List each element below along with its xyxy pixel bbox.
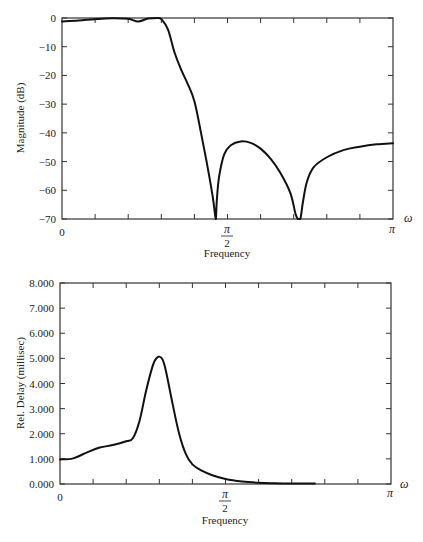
magnitude-x-tick-label-0: 0 <box>59 226 65 238</box>
delay-ticks <box>60 283 391 484</box>
delay-x-tick-label-0: 0 <box>57 491 63 503</box>
magnitude-y-tick-label: −70 <box>39 213 57 225</box>
magnitude-y-tick-label: −10 <box>39 41 57 53</box>
delay-plot-frame <box>60 283 391 484</box>
magnitude-ticks <box>62 18 393 219</box>
delay-y-tick-label: 7.000 <box>29 302 54 314</box>
delay-y-tick-labels: 0.0001.0002.0003.0004.0005.0006.0007.000… <box>29 277 54 490</box>
delay-x-axis-title: Frequency <box>202 514 249 526</box>
magnitude-y-tick-label: −20 <box>39 69 57 81</box>
magnitude-x-axis-symbol: ω <box>404 211 412 225</box>
magnitude-y-tick-labels: 0−10−20−30−40−50−60−70 <box>39 12 57 225</box>
magnitude-x-tick-label-pi: π <box>389 222 396 236</box>
delay-y-tick-label: 3.000 <box>29 403 54 415</box>
magnitude-y-tick-label: −30 <box>39 98 57 110</box>
magnitude-chart: 0−10−20−30−40−50−60−70 0 π 2 π ω Frequen… <box>14 12 412 259</box>
magnitude-y-axis-title: Magnitude (dB) <box>14 82 27 153</box>
magnitude-series-line <box>62 18 393 219</box>
delay-y-tick-label: 8.000 <box>29 277 54 289</box>
delay-y-axis-title: Rel. Delay (millisec) <box>14 337 27 429</box>
magnitude-x-axis-title: Frequency <box>204 247 251 259</box>
magnitude-y-tick-label: −40 <box>39 127 57 139</box>
magnitude-plot-frame <box>62 18 393 219</box>
delay-y-tick-label: 2.000 <box>29 428 54 440</box>
magnitude-y-tick-label: 0 <box>51 12 57 24</box>
delay-chart: 0.0001.0002.0003.0004.0005.0006.0007.000… <box>14 277 408 526</box>
delay-y-tick-label: 4.000 <box>29 378 54 390</box>
delay-series-line <box>60 357 315 484</box>
delay-x-axis-symbol: ω <box>400 477 408 491</box>
delay-y-tick-label: 1.000 <box>29 453 54 465</box>
delay-y-tick-label: 0.000 <box>29 478 54 490</box>
delay-x-tick-label-pi: π <box>387 486 394 500</box>
figure: 0−10−20−30−40−50−60−70 0 π 2 π ω Frequen… <box>0 0 423 542</box>
magnitude-y-tick-label: −50 <box>39 156 57 168</box>
delay-y-tick-label: 5.000 <box>29 352 54 364</box>
magnitude-y-tick-label: −60 <box>39 184 57 196</box>
delay-x-tick-label-pi-half-denominator: 2 <box>222 502 228 514</box>
delay-y-tick-label: 6.000 <box>29 327 54 339</box>
magnitude-x-tick-label-pi-half-numerator: π <box>224 222 231 236</box>
delay-x-tick-label-pi-half-numerator: π <box>222 487 229 501</box>
